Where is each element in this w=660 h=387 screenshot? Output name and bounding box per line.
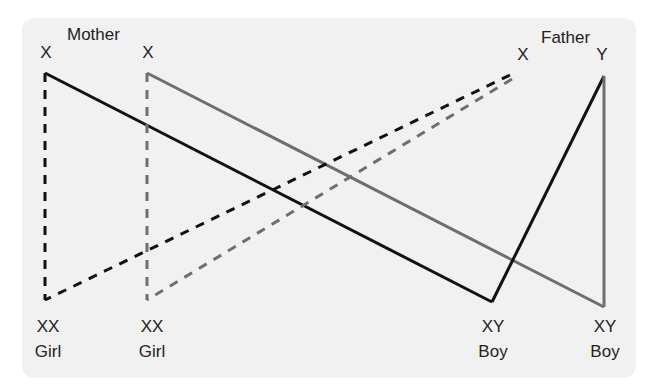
offspring-2-genotype: XX bbox=[141, 318, 164, 335]
offspring-3-genotype: XY bbox=[482, 318, 505, 335]
offspring-4-sex: Boy bbox=[590, 343, 619, 360]
mother-x2-to-boy2-line bbox=[147, 73, 604, 307]
offspring-1-sex: Girl bbox=[35, 343, 61, 360]
offspring-2-sex: Girl bbox=[139, 343, 165, 360]
mother-label: Mother bbox=[67, 26, 120, 43]
father-chromosome-x: X bbox=[517, 46, 528, 63]
offspring-4-genotype: XY bbox=[594, 318, 617, 335]
father-x-to-girl2-line bbox=[147, 79, 512, 300]
father-y-to-boy1-line bbox=[492, 76, 604, 302]
offspring-3-sex: Boy bbox=[478, 343, 507, 360]
father-chromosome-y: Y bbox=[596, 46, 607, 63]
father-label: Father bbox=[541, 29, 590, 46]
mother-chromosome-x2: X bbox=[142, 44, 153, 61]
inheritance-lines bbox=[0, 0, 660, 387]
offspring-1-genotype: XX bbox=[37, 318, 60, 335]
mother-chromosome-x1: X bbox=[40, 44, 51, 61]
